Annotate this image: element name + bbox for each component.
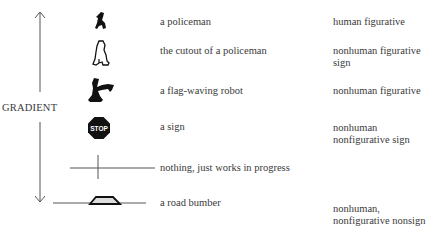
row-description: a policeman [160, 16, 211, 28]
crossed-lines-icon [70, 155, 160, 185]
row-description: a road bumber [160, 197, 221, 209]
row-category-line1: nonhuman, [333, 203, 380, 215]
stop-sign-icon: STOP [88, 117, 110, 139]
policeman-cutout-icon [92, 40, 110, 66]
gradient-label: GRADIENT [2, 102, 57, 113]
row-category-line1: nonhuman [333, 122, 377, 134]
row-description: a flag-waving robot [160, 85, 243, 97]
row-description: nothing, just works in progress [160, 162, 290, 174]
row-description: a sign [160, 121, 185, 133]
row-category: human figurative [333, 16, 405, 28]
row-category-line1: nonhuman figurative [333, 45, 421, 57]
road-bump-icon [53, 194, 153, 208]
row-category-line2: nonfigurative sign [333, 134, 410, 146]
row-category-line2: sign [333, 57, 351, 69]
row-category: nonhuman figurative [333, 85, 421, 97]
row-category-line2: nonfigurative nonsign [333, 215, 425, 227]
svg-text:STOP: STOP [90, 125, 108, 132]
row-description: the cutout of a policeman [160, 45, 267, 57]
gradient-up-arrow [30, 8, 50, 98]
gradient-down-arrow [30, 118, 50, 208]
policeman-icon [93, 12, 109, 32]
flag-waving-robot-icon [88, 78, 116, 102]
